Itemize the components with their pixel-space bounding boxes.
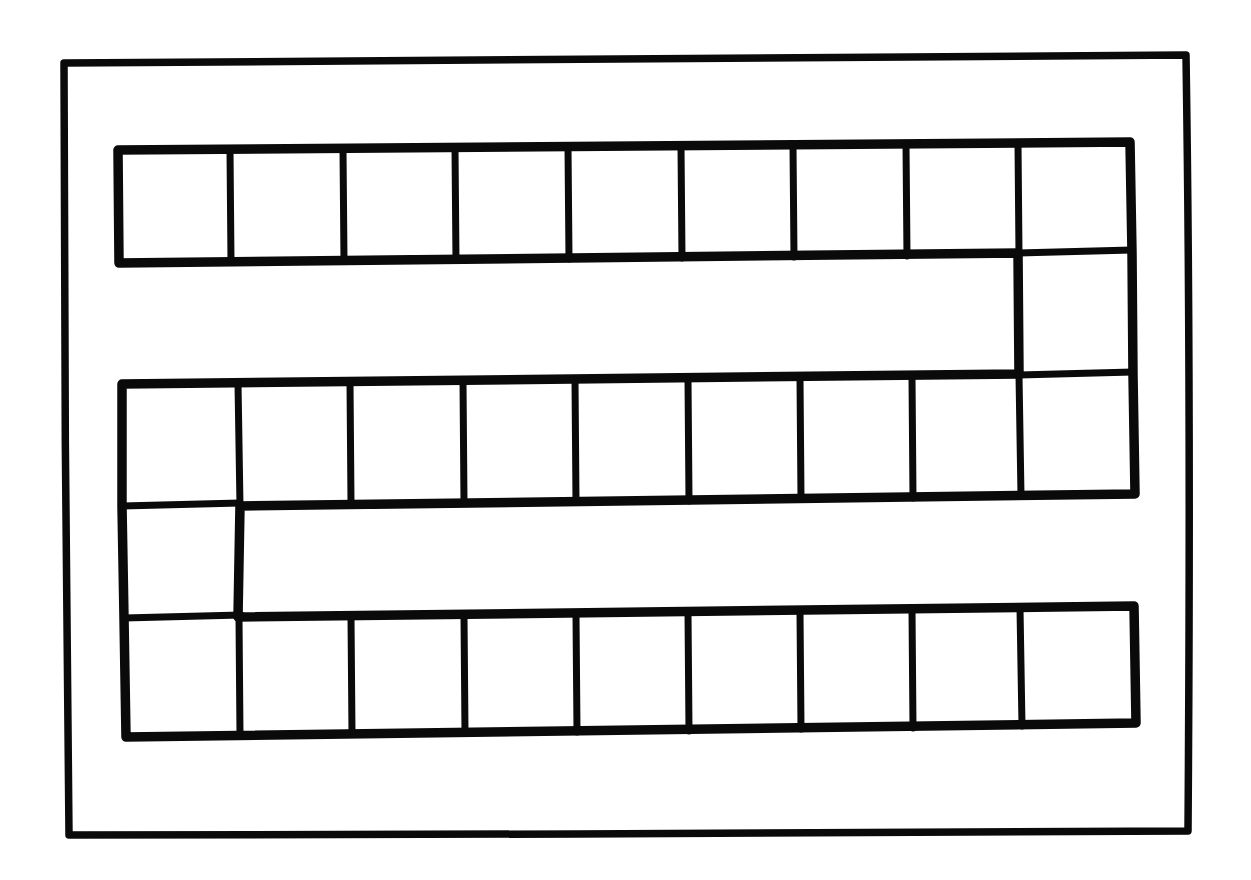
track-cell[interactable]: [793, 145, 905, 256]
track-cell[interactable]: [230, 147, 342, 260]
track-cell[interactable]: [568, 146, 680, 258]
track-cell[interactable]: [460, 380, 573, 501]
track-cell[interactable]: [905, 144, 1017, 254]
track-cell[interactable]: [1023, 608, 1135, 724]
drawing-canvas: Three horizontal rows of nine square cel…: [0, 0, 1251, 880]
track-cell[interactable]: [455, 146, 567, 258]
track-cell[interactable]: [910, 375, 1023, 495]
track-connector-cell[interactable]: [1018, 252, 1132, 376]
track-cell[interactable]: [347, 381, 460, 503]
track-cell[interactable]: [122, 383, 235, 505]
track-cell[interactable]: [343, 147, 455, 260]
track-cell[interactable]: [680, 145, 792, 256]
track-connector-cell[interactable]: [122, 505, 238, 617]
track-cell[interactable]: [1022, 374, 1135, 494]
track-cell[interactable]: [1018, 144, 1130, 254]
track-cell[interactable]: [118, 148, 230, 262]
track-cell[interactable]: [572, 379, 685, 500]
track-cell[interactable]: [573, 613, 685, 731]
track-cell[interactable]: [236, 617, 348, 736]
track-cell[interactable]: [798, 611, 910, 728]
track-cell[interactable]: [797, 376, 910, 497]
track-cell[interactable]: [685, 377, 798, 498]
track-cell[interactable]: [235, 382, 348, 504]
track-cell[interactable]: [349, 616, 461, 734]
track-cell[interactable]: [124, 618, 236, 737]
track-cell[interactable]: [686, 612, 798, 729]
track-cell[interactable]: [461, 614, 573, 732]
track-cell[interactable]: [910, 609, 1022, 726]
